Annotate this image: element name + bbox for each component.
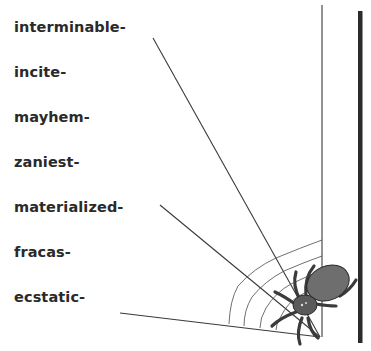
web-ray-3 — [120, 313, 320, 337]
web-rays — [120, 5, 322, 337]
wall-bar — [358, 11, 363, 343]
spider-web-illustration — [0, 0, 371, 351]
